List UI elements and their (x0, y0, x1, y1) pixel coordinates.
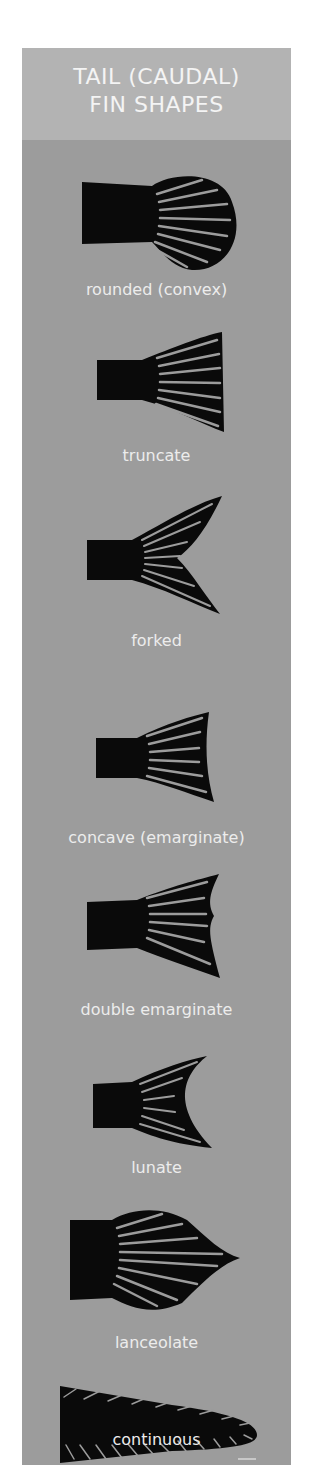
label-lanceolate: lanceolate (22, 1333, 291, 1352)
label-continuous: continuous (22, 1430, 291, 1449)
fin-shapes-panel: TAIL (CAUDAL) FIN SHAPES rounded (convex… (22, 48, 291, 1465)
title-line-1: TAIL (CAUDAL) (22, 64, 291, 90)
truncate-fin-icon (22, 328, 291, 438)
label-lunate: lunate (22, 1158, 291, 1177)
rounded-fin-icon (22, 172, 291, 272)
label-concave: concave (emarginate) (22, 828, 291, 847)
title-line-2: FIN SHAPES (22, 92, 291, 118)
scale-mark (238, 1458, 256, 1460)
label-forked: forked (22, 631, 291, 650)
lunate-fin-icon (22, 1056, 291, 1156)
lanceolate-fin-icon (22, 1208, 291, 1318)
continuous-fin-icon (22, 1383, 291, 1463)
double-emarginate-fin-icon (22, 868, 291, 988)
label-rounded: rounded (convex) (22, 280, 291, 299)
concave-fin-icon (22, 708, 291, 808)
label-double-emarginate: double emarginate (22, 1000, 291, 1019)
forked-fin-icon (22, 488, 291, 618)
label-truncate: truncate (22, 446, 291, 465)
header-band: TAIL (CAUDAL) FIN SHAPES (22, 48, 291, 140)
